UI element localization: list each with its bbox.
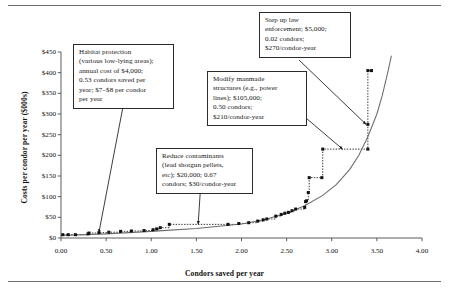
x-tick-1-50: 1.50 [179, 247, 213, 255]
data-point-marker [294, 208, 297, 211]
callout-habitat-line-5: year; $7–$8 per condor [79, 86, 169, 95]
callout-habitat-line-6: per year [79, 95, 169, 104]
leader-modify-manmade-structures [306, 118, 343, 149]
data-point-marker [274, 215, 277, 218]
y-tick-0: $0 [24, 234, 56, 242]
callout-manmade-line-5: $210/condor-year [213, 113, 302, 122]
callout-habitat-protection: Habitat protection (various low-lying ar… [73, 44, 174, 109]
data-point-marker [143, 229, 146, 232]
data-point-marker [119, 230, 122, 233]
data-point-marker [247, 221, 250, 224]
data-point-marker [159, 226, 162, 229]
data-point-marker [87, 232, 90, 235]
data-point-marker [321, 148, 324, 151]
data-point-marker [168, 223, 171, 226]
callout-reduce-contaminants: Reduce contaminants (lead shotgun pellet… [156, 148, 253, 194]
data-point-marker [155, 227, 158, 230]
data-point-marker [74, 233, 77, 236]
callout-contaminants-line-1: Reduce contaminants [162, 152, 248, 161]
callout-lawenf-line-2: enforcement; $5,000; [265, 25, 346, 34]
leader-step-up-law-enforcement [299, 60, 366, 124]
x-tick-2-00: 2.00 [225, 247, 259, 255]
data-point-marker [287, 211, 290, 214]
y-tick-300: $300 [24, 110, 56, 118]
callout-habitat-line-4: 0.53 condors saved per [79, 76, 169, 85]
y-tick-200: $200 [24, 151, 56, 159]
callout-habitat-line-2: (various low-lying areas); [79, 57, 169, 66]
data-point-marker [291, 209, 294, 212]
y-tick-250: $250 [24, 131, 56, 139]
callout-habitat-line-1: Habitat protection [79, 48, 169, 57]
data-point-marker [283, 212, 286, 215]
x-tick-0: 0.00 [44, 247, 78, 255]
callout-lawenf-line-4: $270/condor-year [265, 44, 346, 53]
data-point-marker [226, 223, 229, 226]
data-point-marker [366, 123, 369, 126]
data-point-marker [305, 199, 308, 202]
x-tick-2-50: 2.50 [270, 247, 304, 255]
x-tick-1-00: 1.00 [134, 247, 168, 255]
callout-manmade-line-3: lines); $105,000; [213, 94, 302, 103]
y-tick-450: $450 [24, 48, 56, 56]
data-point-marker [61, 233, 64, 236]
callout-manmade-line-2: structures (e.g., power [213, 84, 302, 93]
x-axis-title: Condors saved per year [0, 269, 449, 278]
callout-lawenf-line-1: Step up law [265, 16, 346, 25]
x-tick-0-50: 0.50 [89, 247, 123, 255]
y-tick-150: $150 [24, 172, 56, 180]
callout-manmade-line-4: 0.50 condors; [213, 103, 302, 112]
y-axis-title: Costs per condor per year ($000s) [20, 48, 29, 248]
y-tick-50: $50 [24, 213, 56, 221]
data-point-marker [262, 218, 265, 221]
callout-contaminants-line-4: condors; $30/condor-year [162, 180, 248, 189]
callout-contaminants-line-3: etc); $20,000; 0.67 [162, 171, 248, 180]
data-point-marker [370, 69, 373, 72]
data-point-marker [265, 217, 268, 220]
data-point-marker [320, 176, 323, 179]
x-tick-4-00: 4.00 [405, 247, 439, 255]
callout-step-up-law-enforcement: Step up law enforcement; $5,000; 0.02 co… [259, 12, 351, 58]
callout-manmade-line-1: Modify manmade [213, 75, 302, 84]
y-tick-350: $350 [24, 89, 56, 97]
data-point-marker [130, 229, 133, 232]
data-point-marker [107, 231, 110, 234]
data-point-marker [366, 69, 369, 72]
y-tick-100: $100 [24, 193, 56, 201]
callout-modify-manmade-structures: Modify manmade structures (e.g., power l… [207, 71, 307, 126]
callout-lawenf-line-3: 0.02 condors; [265, 35, 346, 44]
callout-contaminants-line-2: (lead shotgun pellets, [162, 161, 248, 170]
chart-figure: $450 $400 $350 $300 $250 $200 $150 $100 … [0, 0, 449, 290]
data-point-marker [67, 233, 70, 236]
data-point-marker [237, 222, 240, 225]
x-tick-3-00: 3.00 [315, 247, 349, 255]
data-point-marker [256, 220, 259, 223]
data-point-marker [308, 176, 311, 179]
x-tick-3-50: 3.50 [360, 247, 394, 255]
callout-habitat-line-3: annual cost of $4,000; [79, 67, 169, 76]
leader-habitat-protection [99, 104, 124, 233]
data-point-marker [307, 191, 310, 194]
data-point-marker [280, 213, 283, 216]
y-tick-400: $400 [24, 69, 56, 77]
data-point-marker [366, 148, 369, 151]
data-point-marker [303, 206, 306, 209]
data-point-marker [152, 228, 155, 231]
